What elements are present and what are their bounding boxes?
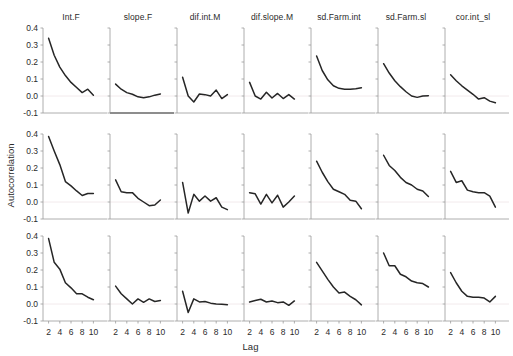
acf-series-dif-int-m-row1 — [183, 77, 228, 102]
acf-series-int-f-row3 — [49, 239, 94, 300]
acf-series-slope-f-row3 — [116, 286, 161, 304]
acf-series-cor-int-sl-row1 — [451, 75, 496, 103]
acf-series-dif-int-m-row2 — [183, 182, 228, 213]
acf-series-sd-farm-sl-row3 — [384, 253, 429, 287]
acf-series-dif-int-m-row3 — [183, 291, 228, 312]
acf-series-sd-farm-sl-row1 — [384, 64, 429, 98]
acf-series-int-f-row1 — [49, 38, 94, 95]
acf-series-dif-slope-m-row2 — [250, 193, 295, 207]
acf-series-int-f-row2 — [49, 137, 94, 196]
acf-series-dif-slope-m-row1 — [250, 82, 295, 99]
acf-series-sd-farm-sl-row2 — [384, 155, 429, 196]
acf-series-sd-farm-int-row1 — [317, 56, 362, 89]
acf-series-cor-int-sl-row3 — [451, 273, 496, 302]
acf-series-sd-farm-int-row3 — [317, 262, 362, 305]
